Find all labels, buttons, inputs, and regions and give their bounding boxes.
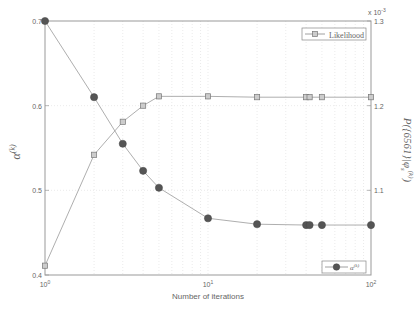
- data-point: [141, 103, 146, 108]
- data-point: [367, 221, 374, 228]
- legend-alpha: α(k): [322, 261, 366, 273]
- y-axis-label-right: P({6561}|φs(k)): [399, 117, 415, 183]
- y-tick-right: 1.3: [374, 18, 384, 25]
- legend-likelihood: Likelihood: [302, 28, 366, 40]
- y-tick-left: 0.6: [32, 103, 42, 110]
- data-point: [306, 221, 313, 228]
- data-point: [140, 167, 147, 174]
- data-point: [253, 221, 260, 228]
- x-tick: 101: [203, 279, 214, 288]
- square-marker-icon: [313, 32, 318, 37]
- data-point: [41, 17, 48, 24]
- y-tick-left: 0.4: [32, 272, 42, 279]
- y-tick-left: 0.7: [32, 18, 42, 25]
- data-point: [307, 95, 312, 100]
- x-tick: 102: [366, 279, 377, 288]
- grid-lines: [45, 21, 371, 275]
- data-point: [368, 95, 373, 100]
- data-point: [204, 215, 211, 222]
- data-point: [91, 152, 96, 157]
- x-axis-label: Number of iterations: [172, 292, 244, 301]
- data-point: [155, 184, 162, 191]
- data-point: [318, 221, 325, 228]
- svg-text:Likelihood: Likelihood: [329, 31, 364, 40]
- chart: 0.40.50.60.71.11.21.3100101102 Number of…: [0, 0, 418, 312]
- data-point: [42, 263, 47, 268]
- y-tick-right: 1.1: [374, 187, 384, 194]
- data-point: [119, 140, 126, 147]
- right-axis-multiplier: x 10-3: [368, 7, 386, 16]
- svg-text:P({6561}|φs(k)): P({6561}|φs(k)): [399, 117, 415, 183]
- data-point: [205, 94, 210, 99]
- data-point: [120, 119, 125, 124]
- circle-marker-icon: [333, 264, 340, 271]
- data-point: [254, 95, 259, 100]
- data-point: [90, 94, 97, 101]
- y-axis-label-left: α(k): [8, 144, 23, 160]
- svg-text:α(k): α(k): [8, 144, 23, 160]
- data-point: [156, 94, 161, 99]
- x-tick: 100: [40, 279, 51, 288]
- series-lines: [41, 17, 374, 268]
- y-tick-right: 1.2: [374, 103, 384, 110]
- y-tick-left: 0.5: [32, 187, 42, 194]
- data-point: [319, 95, 324, 100]
